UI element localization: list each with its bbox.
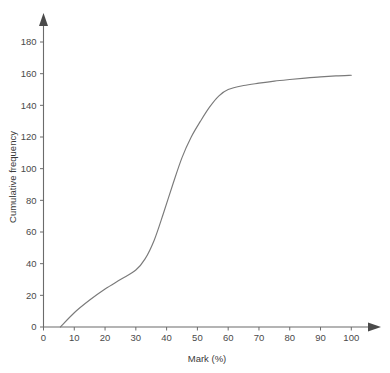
y-tick-label: 160 (21, 68, 37, 79)
chart-canvas: 020406080100120140160180 010203040506070… (0, 0, 390, 373)
y-tick-label: 80 (26, 195, 37, 206)
x-tick-label: 90 (315, 332, 326, 343)
y-tick-label: 140 (21, 100, 37, 111)
y-tick-label: 40 (26, 258, 37, 269)
x-tick-label: 100 (343, 332, 359, 343)
x-tick-label: 20 (100, 332, 111, 343)
y-tick-label: 60 (26, 226, 37, 237)
x-axis-ticks: 0102030405060708090100 (41, 327, 359, 343)
x-tick-label: 80 (284, 332, 295, 343)
y-axis-ticks: 020406080100120140160180 (21, 36, 44, 332)
y-tick-label: 20 (26, 290, 37, 301)
x-tick-label: 40 (161, 332, 172, 343)
y-tick-label: 120 (21, 131, 37, 142)
x-tick-label: 30 (131, 332, 142, 343)
y-tick-label: 180 (21, 36, 37, 47)
x-axis-title: Mark (%) (188, 353, 227, 364)
x-tick-label: 0 (41, 332, 46, 343)
cumulative-frequency-curve (60, 75, 351, 327)
x-tick-label: 70 (254, 332, 265, 343)
y-axis-arrowhead (39, 13, 48, 26)
x-tick-label: 60 (223, 332, 234, 343)
x-tick-label: 10 (69, 332, 80, 343)
y-axis-title: Cumulative frequency (7, 131, 18, 223)
x-tick-label: 50 (192, 332, 203, 343)
cumulative-frequency-chart: 020406080100120140160180 010203040506070… (0, 0, 390, 373)
y-tick-label: 100 (21, 163, 37, 174)
x-axis-arrowhead (368, 323, 381, 332)
y-tick-label: 0 (31, 321, 36, 332)
